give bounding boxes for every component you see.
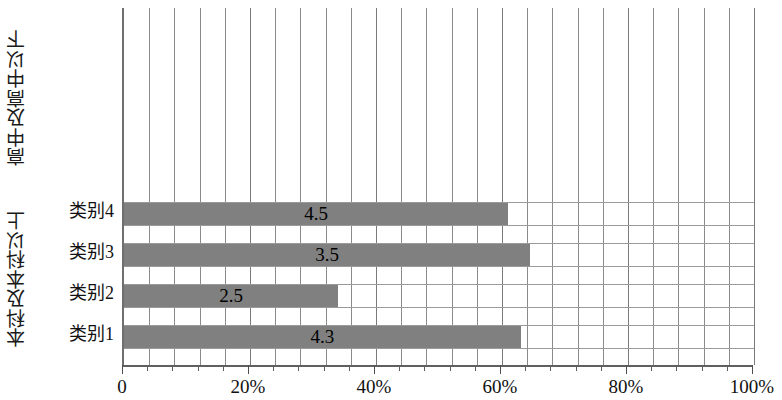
row-separator bbox=[124, 225, 754, 226]
x-axis-major-tick bbox=[626, 365, 627, 374]
x-axis-tick-label: 20% bbox=[231, 376, 266, 398]
gridline bbox=[628, 8, 629, 365]
x-axis-minor-tick bbox=[601, 365, 602, 371]
x-axis-tick-label: 40% bbox=[357, 376, 392, 398]
category-label: 类别4 bbox=[69, 200, 114, 222]
x-axis-minor-tick bbox=[651, 365, 652, 371]
x-axis-minor-tick bbox=[424, 365, 425, 371]
gridline bbox=[401, 8, 402, 365]
gridline bbox=[527, 8, 528, 365]
x-axis-minor-tick bbox=[273, 365, 274, 371]
category-label: 类别3 bbox=[69, 241, 114, 263]
x-axis-minor-tick bbox=[727, 365, 728, 371]
x-axis-major-tick bbox=[374, 365, 375, 374]
bar-value-label: 2.5 bbox=[124, 285, 338, 307]
gridline bbox=[351, 8, 352, 365]
x-axis-minor-tick bbox=[550, 365, 551, 371]
gridline bbox=[653, 8, 654, 365]
x-axis-minor-tick bbox=[147, 365, 148, 371]
gridline bbox=[678, 8, 679, 365]
category-axis-labels: 类别1类别2类别3类别4 bbox=[40, 192, 118, 366]
bar-value-label: 4.5 bbox=[124, 203, 508, 225]
x-axis-major-tick bbox=[248, 365, 249, 374]
x-axis-tick-label: 60% bbox=[483, 376, 518, 398]
row-separator bbox=[124, 307, 754, 308]
x-axis-tick-label: 0 bbox=[117, 376, 127, 398]
gridline bbox=[326, 8, 327, 365]
gridline bbox=[704, 8, 705, 365]
gridline bbox=[552, 8, 553, 365]
gridline bbox=[250, 8, 251, 365]
row-separator bbox=[124, 348, 754, 349]
category-label: 类别1 bbox=[69, 323, 114, 345]
gridline bbox=[754, 8, 755, 365]
gridline bbox=[174, 8, 175, 365]
gridline bbox=[452, 8, 453, 365]
gridline bbox=[578, 8, 579, 365]
gridline bbox=[275, 8, 276, 365]
bar-chart: 高中及高中以下 本科及本科以上 类别1类别2类别3类别4 4.32.53.54.… bbox=[0, 0, 782, 400]
gridline bbox=[300, 8, 301, 365]
gridline bbox=[225, 8, 226, 365]
x-axis-minor-tick bbox=[450, 365, 451, 371]
x-axis-tick-label: 80% bbox=[609, 376, 644, 398]
gridline bbox=[477, 8, 478, 365]
axis-group-title-upper: 高中及高中以下 bbox=[0, 6, 34, 190]
x-axis-minor-tick bbox=[702, 365, 703, 371]
bar-value-label: 4.3 bbox=[124, 326, 521, 348]
x-axis-major-tick bbox=[122, 365, 123, 374]
x-axis-minor-tick bbox=[223, 365, 224, 371]
x-axis-minor-tick bbox=[475, 365, 476, 371]
x-axis-minor-tick bbox=[324, 365, 325, 371]
x-axis-minor-tick bbox=[576, 365, 577, 371]
x-axis-minor-tick bbox=[172, 365, 173, 371]
gridline bbox=[426, 8, 427, 365]
gridline bbox=[200, 8, 201, 365]
gridline bbox=[603, 8, 604, 365]
x-axis-major-tick bbox=[752, 365, 753, 374]
x-axis-line bbox=[122, 365, 753, 367]
gridline bbox=[729, 8, 730, 365]
axis-group-title-lower: 本科及本科以上 bbox=[0, 192, 34, 366]
row-separator bbox=[124, 266, 754, 267]
gridline bbox=[502, 8, 503, 365]
x-axis-major-tick bbox=[500, 365, 501, 374]
gridline bbox=[376, 8, 377, 365]
x-axis-minor-tick bbox=[525, 365, 526, 371]
x-axis-minor-tick bbox=[298, 365, 299, 371]
plot-area: 4.32.53.54.5 bbox=[122, 8, 754, 365]
x-axis-minor-tick bbox=[399, 365, 400, 371]
x-axis-tick-label: 100% bbox=[730, 376, 774, 398]
gridline bbox=[149, 8, 150, 365]
x-axis-minor-tick bbox=[198, 365, 199, 371]
x-axis-minor-tick bbox=[349, 365, 350, 371]
bar-value-label: 3.5 bbox=[124, 244, 530, 266]
category-label: 类别2 bbox=[69, 282, 114, 304]
x-axis-minor-tick bbox=[676, 365, 677, 371]
